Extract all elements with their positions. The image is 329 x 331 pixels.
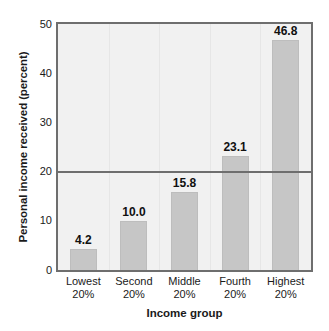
bar <box>171 192 198 270</box>
x-axis-tick-labels: Lowest20%Second20%Middle20%Fourth20%High… <box>56 275 313 303</box>
chart-figure: Personal income received (percent) 01020… <box>0 0 329 331</box>
y-tick-label: 20 <box>26 166 52 177</box>
x-axis-title: Income group <box>56 307 313 319</box>
x-tick-label-line1: Middle <box>168 275 200 287</box>
x-tick-label: Highest20% <box>256 275 316 301</box>
category-separator <box>109 24 110 270</box>
category-separator <box>260 24 261 270</box>
bar <box>272 40 299 270</box>
category-separator <box>159 24 160 270</box>
y-axis-tick-labels: 01020304050 <box>26 22 52 272</box>
bar-value-label: 15.8 <box>160 177 210 190</box>
x-tick-label-line2: 20% <box>256 288 316 301</box>
y-tick-label: 10 <box>26 215 52 226</box>
x-tick-label-line1: Lowest <box>66 275 101 287</box>
bar-value-label: 46.8 <box>261 25 311 38</box>
x-tick-label-line1: Second <box>115 275 152 287</box>
plot-inner: 4.210.015.823.146.8 <box>58 24 311 270</box>
y-tick-label: 30 <box>26 117 52 128</box>
x-tick-label-line1: Fourth <box>219 275 251 287</box>
y-tick-label: 0 <box>26 265 52 276</box>
bar-value-label: 4.2 <box>58 234 108 247</box>
y-tick-label: 50 <box>26 19 52 30</box>
bar-value-label: 10.0 <box>109 206 159 219</box>
bar <box>70 249 97 270</box>
bar <box>222 156 249 270</box>
plot-area: 4.210.015.823.146.8 <box>56 22 313 272</box>
reference-line <box>58 171 311 173</box>
x-tick-label-line1: Highest <box>267 275 304 287</box>
bar-value-label: 23.1 <box>210 141 260 154</box>
y-tick-label: 40 <box>26 68 52 79</box>
bar <box>120 221 147 270</box>
